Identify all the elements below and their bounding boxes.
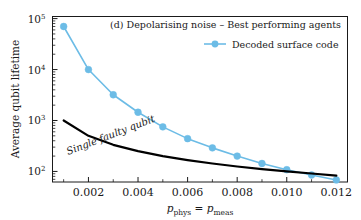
x-tick-label: 0.010 [271, 186, 303, 199]
x-label-sub2: meas [213, 208, 233, 217]
data-point [209, 144, 216, 151]
x-label-eq: = [191, 202, 206, 214]
x-tick-label: 0.002 [73, 186, 105, 199]
data-point [259, 160, 266, 167]
data-point [135, 109, 142, 116]
data-point [60, 23, 67, 30]
x-tick-label: 0.012 [321, 186, 353, 199]
x-tick-label: 0.006 [172, 186, 204, 199]
y-axis-title-text: Average qubit lifetime [9, 40, 21, 160]
chart-svg: 105104103102 0.0020.0040.0060.0080.0100.… [0, 0, 361, 220]
legend-label: Decoded surface code [232, 39, 339, 50]
figure-container: 105104103102 0.0020.0040.0060.0080.0100.… [0, 0, 361, 220]
x-label-sub1: phys [173, 208, 191, 217]
legend-marker [212, 41, 219, 48]
data-point [184, 135, 191, 142]
x-tick-label: 0.008 [221, 186, 253, 199]
data-point [234, 153, 241, 160]
x-tick-label: 0.004 [122, 186, 154, 199]
data-point [85, 66, 92, 73]
panel-title: (d) Depolarising noise – Best performing… [110, 19, 341, 30]
data-point [333, 177, 340, 184]
data-point [159, 123, 166, 130]
y-axis-title: Average qubit lifetime [9, 40, 21, 160]
data-point [110, 91, 117, 98]
